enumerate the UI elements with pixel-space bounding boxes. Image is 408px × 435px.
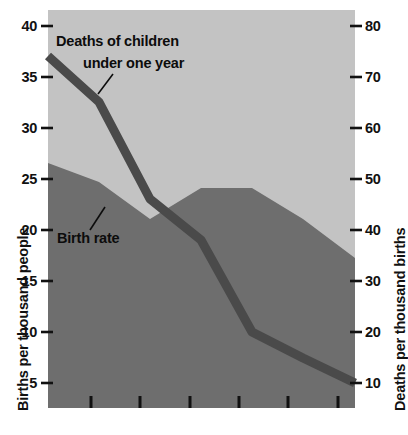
- y2-tick-label-20: 20: [365, 324, 393, 340]
- birth-rate-series-label: Birth rate: [57, 230, 119, 246]
- deaths-series-label-line2: under one year: [83, 55, 184, 71]
- y-tick-label-30: 30: [11, 120, 37, 136]
- chart-figure: 40 35 30 25 20 15 10 5 80 70 60 50 40 30…: [0, 0, 408, 435]
- y2-tick-label-70: 70: [365, 69, 393, 85]
- chart-canvas: [0, 0, 408, 435]
- y2-tick-label-80: 80: [365, 18, 393, 34]
- y2-tick-label-10: 10: [365, 375, 393, 391]
- y2-tick-label-40: 40: [365, 222, 393, 238]
- y2-tick-label-30: 30: [365, 273, 393, 289]
- y2-tick-label-60: 60: [365, 120, 393, 136]
- y-axis-title: Births per thousand people: [15, 228, 31, 411]
- y-tick-label-25: 25: [11, 171, 37, 187]
- y-tick-label-35: 35: [11, 69, 37, 85]
- y2-axis-title: Deaths per thousand births: [392, 228, 408, 411]
- y-tick-label-40: 40: [11, 18, 37, 34]
- deaths-series-label-line1: Deaths of children: [56, 33, 179, 49]
- y2-tick-label-50: 50: [365, 171, 393, 187]
